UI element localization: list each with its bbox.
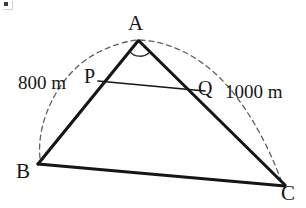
vertex-label-c: C bbox=[281, 183, 295, 204]
point-label-p: P bbox=[84, 66, 95, 86]
vertex-label-b: B bbox=[16, 161, 30, 182]
segment-bc bbox=[38, 164, 285, 186]
angle-mark-a bbox=[130, 52, 149, 56]
triangle-drawing-canvas bbox=[0, 0, 306, 208]
vertex-label-a: A bbox=[128, 13, 143, 34]
measurement-label-ab: 800 m bbox=[18, 73, 66, 92]
measurement-label-ac: 1000 m bbox=[225, 82, 283, 101]
segment-ac bbox=[139, 41, 285, 185]
point-label-q: Q bbox=[198, 78, 212, 98]
segment-ab bbox=[38, 41, 138, 164]
segment-pq bbox=[98, 81, 205, 91]
geometry-figure: A B C P Q 800 m 1000 m bbox=[0, 0, 306, 208]
arc-ab-dashed bbox=[40, 40, 137, 158]
